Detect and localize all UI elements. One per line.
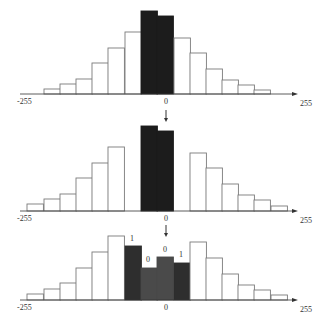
histogram-bar [174, 263, 190, 300]
histogram-bar [271, 295, 287, 300]
histogram-bar [92, 252, 108, 300]
histogram-bar [254, 90, 270, 94]
axis-arrowhead-icon [292, 298, 298, 302]
histogram-bar [108, 48, 124, 94]
axis-zero-label: 0 [164, 214, 168, 223]
histogram-bar [60, 194, 76, 211]
histogram-bar [44, 89, 60, 94]
axis-arrowhead-icon [292, 209, 298, 213]
histogram-bar [76, 268, 92, 300]
histogram-bar [238, 195, 254, 211]
histogram-bar [92, 163, 108, 211]
histogram-bar [157, 257, 173, 300]
histogram-bar [27, 294, 43, 300]
histogram-bar [60, 283, 76, 300]
histogram-bar [222, 80, 238, 94]
histogram-bar [271, 206, 287, 211]
histogram-bar [92, 63, 108, 94]
axis-max-label: 255 [300, 216, 312, 225]
histogram-bar [125, 32, 141, 94]
original-histogram: -2550255 [17, 11, 312, 108]
embedded-bit-label: 1 [130, 234, 134, 243]
down-arrowhead-icon [164, 118, 168, 122]
axis-max-label: 255 [300, 99, 312, 108]
axis-zero-label: 0 [164, 97, 168, 106]
histogram-bar [222, 274, 238, 300]
histogram-bar [157, 131, 173, 211]
axis-zero-label: 0 [164, 303, 168, 312]
histogram-bar [76, 178, 92, 211]
histogram-bar [141, 126, 157, 211]
histogram-bar [238, 285, 254, 300]
histogram-bar [206, 168, 222, 211]
histogram-bar [76, 79, 92, 94]
histogram-bar [44, 289, 60, 300]
axis-min-label: -255 [17, 303, 32, 312]
embedded-bit-label: 0 [146, 255, 150, 264]
histogram-bar [190, 153, 206, 211]
histogram-bar [206, 69, 222, 94]
histogram-bar [190, 53, 206, 94]
histogram-bar [108, 236, 124, 300]
histogram-bar [141, 268, 157, 300]
axis-arrowhead-icon [292, 92, 298, 96]
histogram-bar [174, 38, 190, 94]
histogram-shifting-diagram: -2550255 -2550255 -25502551001 [0, 0, 328, 320]
histogram-bar [254, 200, 270, 211]
histogram-bar [222, 184, 238, 211]
down-arrowhead-icon [164, 233, 168, 237]
axis-min-label: -255 [17, 214, 32, 223]
histogram-bar [141, 11, 157, 94]
embedded-bit-label: 0 [163, 245, 167, 254]
histogram-bar [190, 242, 206, 300]
axis-max-label: 255 [300, 305, 312, 314]
histogram-bar [254, 290, 270, 300]
histogram-bar [125, 246, 141, 300]
histogram-bar [108, 147, 124, 211]
embedded-histogram: -25502551001 [17, 234, 312, 314]
shifted-histogram: -2550255 [17, 126, 312, 225]
embedded-bit-label: 1 [179, 250, 183, 259]
histogram-bar [157, 16, 173, 94]
histogram-bar [60, 84, 76, 94]
histogram-bar [238, 85, 254, 94]
histogram-bar [27, 204, 43, 211]
axis-min-label: -255 [17, 97, 32, 106]
histogram-bar [206, 258, 222, 300]
histogram-bar [44, 199, 60, 211]
